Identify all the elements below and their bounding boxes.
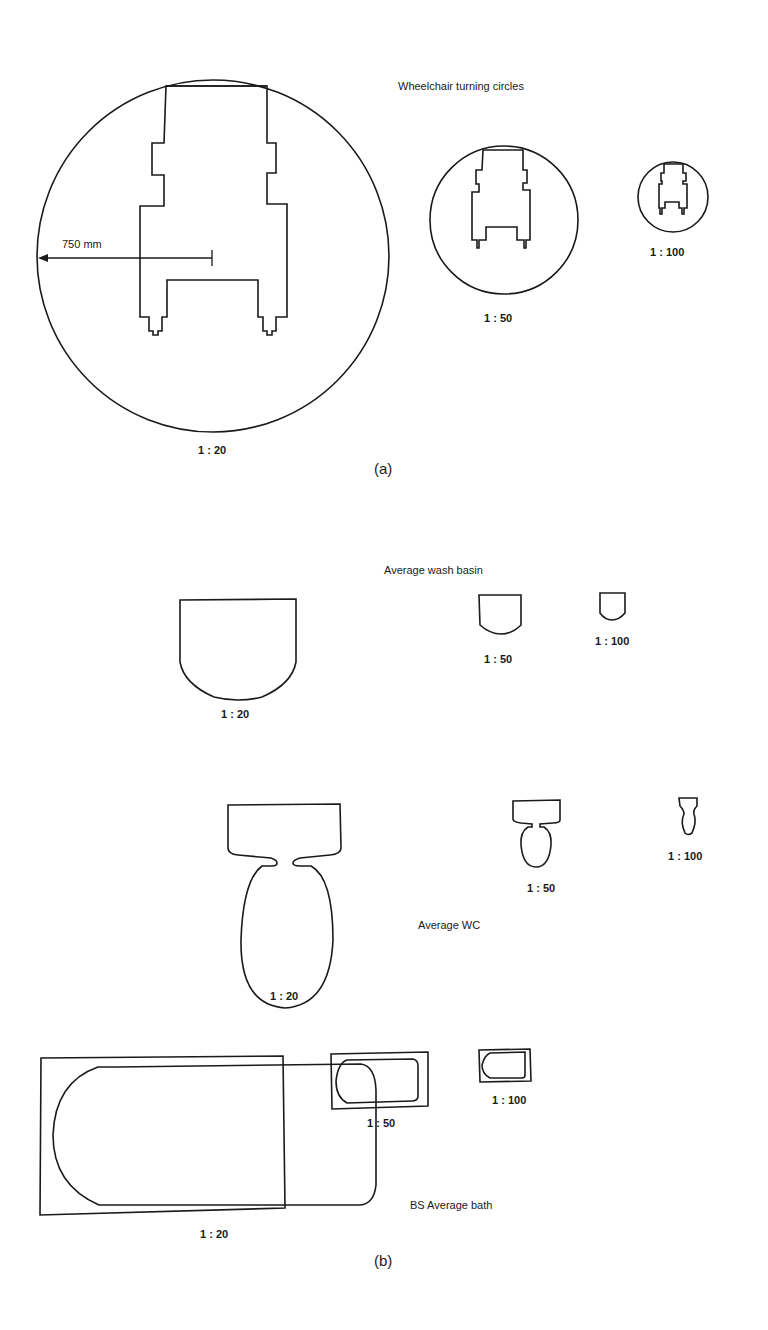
bath-title: BS Average bath	[410, 1199, 492, 1211]
scale-label-1-50: 1 : 50	[484, 653, 512, 665]
scale-label-1-100: 1 : 100	[595, 635, 629, 647]
scale-label-1-20: 1 : 20	[270, 990, 298, 1002]
turning-circle-outline	[37, 80, 389, 432]
wheelchair-circle-1-100: 1 : 100	[638, 162, 708, 258]
bath-1-100-inner-basin	[482, 1052, 525, 1078]
bath-1-50-inner-basin	[336, 1059, 418, 1103]
wheelchair-plan-outline	[472, 150, 530, 248]
wc-1-20-outline	[228, 804, 341, 1008]
scale-label-1-20: 1 : 20	[221, 708, 249, 720]
panel-label-b: (b)	[374, 1252, 392, 1269]
wash-basin-title: Average wash basin	[384, 564, 483, 576]
scale-label-1-50: 1 : 50	[484, 312, 512, 324]
wash-basin-1-100-outline	[600, 593, 625, 620]
wheelchair-circle-1-20: 750 mm 1 : 20	[37, 80, 389, 456]
wash-basin-1-50-outline	[479, 595, 521, 634]
wc-1-50-outline	[513, 800, 560, 867]
scale-label-1-20: 1 : 20	[200, 1228, 228, 1240]
wc-group: 1 : 20 1 : 50 1 : 100 Average WC	[228, 798, 702, 1008]
scale-label-1-50: 1 : 50	[367, 1117, 395, 1129]
wheelchair-circle-1-50: 1 : 50	[430, 146, 578, 324]
scale-label-1-100: 1 : 100	[492, 1094, 526, 1106]
turning-circle-outline	[638, 162, 708, 232]
wheelchair-turning-circles-section: Wheelchair turning circles 750 mm 1 : 20…	[37, 80, 708, 477]
radius-dimension-label: 750 mm	[62, 238, 102, 250]
wash-basin-group: Average wash basin 1 : 20 1 : 50 1 : 100	[180, 564, 629, 720]
panel-label-a: (a)	[374, 460, 392, 477]
wheelchair-plan-outline	[659, 164, 687, 214]
scale-label-1-100: 1 : 100	[668, 850, 702, 862]
scale-label-1-50: 1 : 50	[527, 882, 555, 894]
bath-group: 1 : 20 1 : 50 1 : 100 BS Average bath	[40, 1049, 531, 1240]
scale-drawings-figure: Wheelchair turning circles 750 mm 1 : 20…	[0, 0, 768, 1330]
wc-1-100-outline	[679, 798, 697, 835]
dimension-arrowhead-icon	[38, 254, 48, 262]
bath-1-20-inner-basin	[53, 1064, 376, 1205]
wc-title: Average WC	[418, 919, 480, 931]
sanitary-fittings-section: Average wash basin 1 : 20 1 : 50 1 : 100…	[40, 564, 702, 1269]
scale-label-1-100: 1 : 100	[650, 246, 684, 258]
turning-circle-outline	[430, 146, 578, 294]
wash-basin-1-20-outline	[180, 599, 296, 700]
wheelchair-plan-outline	[140, 86, 287, 335]
scale-label-1-20: 1 : 20	[198, 444, 226, 456]
wheelchair-section-title: Wheelchair turning circles	[398, 80, 524, 92]
